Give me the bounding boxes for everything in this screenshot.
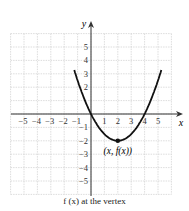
- svg-text:−5: −5: [18, 116, 27, 126]
- vertex-label: (x, f(x)): [104, 146, 132, 157]
- svg-text:3: 3: [129, 116, 133, 126]
- svg-text:2: 2: [116, 116, 120, 126]
- svg-text:−4: −4: [32, 116, 42, 126]
- svg-text:−5: −5: [79, 176, 88, 186]
- svg-text:−3: −3: [79, 149, 88, 159]
- vertex-point: [116, 139, 121, 144]
- svg-text:−2: −2: [59, 116, 68, 126]
- x-axis-label: x: [178, 117, 184, 128]
- svg-text:5: 5: [156, 116, 160, 126]
- svg-text:5: 5: [84, 42, 88, 52]
- caption: f (x) at the vertex: [0, 196, 189, 206]
- svg-text:3: 3: [84, 69, 88, 79]
- svg-text:4: 4: [84, 55, 89, 65]
- svg-text:−3: −3: [45, 116, 54, 126]
- svg-text:−1: −1: [79, 122, 88, 132]
- svg-text:2: 2: [84, 82, 88, 92]
- svg-text:−2: −2: [79, 136, 88, 146]
- parabola-chart: x y −5−4−3−2−1123455432−1−2−3−4−5 (x, f(…: [0, 0, 189, 211]
- svg-text:−4: −4: [79, 163, 89, 173]
- svg-text:1: 1: [102, 116, 106, 126]
- y-axis-label: y: [81, 18, 87, 29]
